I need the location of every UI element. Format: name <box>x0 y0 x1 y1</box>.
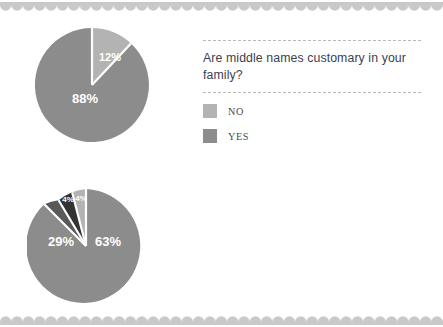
pie-slice-value-none: 4% <box>75 194 87 203</box>
question-text-customary: Are middle names customary in your famil… <box>203 41 421 92</box>
pie-chart-customary: 12% 88% <box>0 16 190 171</box>
pie-chart-how-many: 4% 4% 29% 63% <box>0 176 190 311</box>
question-block-customary: Are middle names customary in your famil… <box>203 40 421 143</box>
legend-label-no: NO <box>228 106 244 117</box>
legend-swatch-no <box>203 104 217 118</box>
legend-swatch-yes <box>203 129 217 143</box>
survey-section-middle-names-customary: 12% 88% Are middle names customary in yo… <box>0 16 443 171</box>
pie-slice-value-no: 12% <box>99 51 121 63</box>
pie-slice-value-three-or-more: 4% <box>62 195 74 204</box>
legend-label-yes: YES <box>228 131 249 142</box>
pie-slice-value-yes: 88% <box>72 91 98 106</box>
legend-item-no[interactable]: NO <box>203 104 421 118</box>
pie-slice-value-two: 29% <box>48 234 74 249</box>
legend-customary: NO YES <box>203 93 421 143</box>
survey-section-how-many-middle-names: 4% 4% 29% 63% How many middle names do y… <box>0 176 443 311</box>
scallop-border-bottom <box>0 314 443 325</box>
legend-item-yes[interactable]: YES <box>203 129 421 143</box>
scallop-border-top <box>0 2 443 13</box>
pie-slice-value-one: 63% <box>95 234 121 249</box>
